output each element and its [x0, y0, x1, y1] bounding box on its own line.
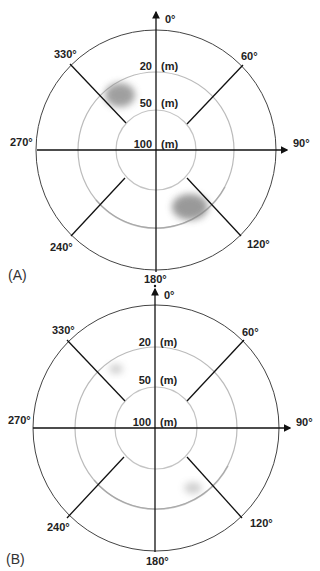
range-label-unit: (m)	[160, 336, 177, 348]
angle-label-180: 180°	[146, 555, 169, 567]
range-label-value: 100	[133, 416, 151, 428]
range-label-value: 20	[140, 60, 152, 72]
range-label-value: 50	[139, 374, 151, 386]
radial-line-240	[67, 457, 124, 518]
angle-label-60: 60°	[241, 50, 258, 62]
angle-label-0: 0°	[164, 289, 175, 301]
range-label-value: 50	[140, 97, 152, 109]
range-label-value: 100	[134, 138, 152, 150]
dot	[154, 285, 156, 287]
detection-blob	[109, 364, 123, 374]
angle-label-60: 60°	[242, 326, 259, 338]
angle-label-120: 120°	[247, 238, 270, 250]
detection-blob	[105, 83, 135, 107]
angle-label-90: 90°	[293, 137, 310, 149]
range-label-value: 20	[139, 336, 151, 348]
angle-label-180: 180°	[144, 273, 167, 285]
polar-diagrams: 0° 60° 90° 120° 180° 240° 270° 330° 20 (…	[0, 0, 320, 571]
radial-line-60	[187, 340, 244, 401]
middle-ring-shadow	[94, 466, 228, 509]
radial-line-240	[71, 178, 125, 236]
angle-label-90: 90°	[296, 416, 313, 428]
panel-a: 0° 60° 90° 120° 180° 240° 270° 330° 20 (…	[8, 12, 310, 287]
range-label-unit: (m)	[161, 60, 178, 72]
panel-label: (A)	[8, 267, 27, 283]
range-label-unit: (m)	[160, 416, 177, 428]
radial-line-60	[187, 65, 243, 124]
angle-label-270: 270°	[10, 136, 33, 148]
angle-label-120: 120°	[250, 517, 273, 529]
angle-label-330: 330°	[54, 48, 77, 60]
detection-blob	[184, 482, 202, 494]
angle-label-0: 0°	[165, 13, 176, 25]
panel-b: 0° 60° 90° 120° 180° 240° 270° 330° 20 (…	[6, 289, 313, 567]
range-label-unit: (m)	[160, 374, 177, 386]
range-label-unit: (m)	[161, 138, 178, 150]
panel-label: (B)	[6, 551, 25, 567]
range-label-unit: (m)	[161, 97, 178, 109]
angle-label-240: 240°	[50, 241, 73, 253]
angle-label-240: 240°	[47, 521, 70, 533]
detection-blob	[172, 194, 208, 220]
angle-label-270: 270°	[8, 414, 31, 426]
angle-label-330: 330°	[52, 324, 75, 336]
